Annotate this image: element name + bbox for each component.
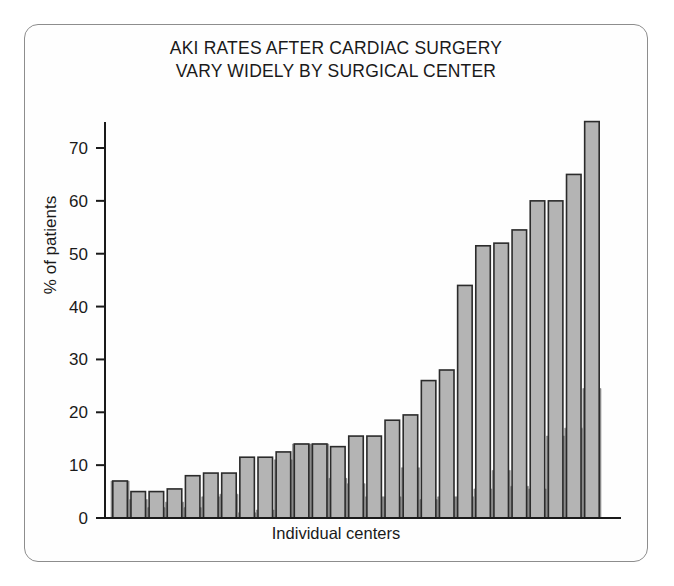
bar: [258, 457, 273, 518]
bar: [439, 370, 454, 518]
bar: [494, 243, 509, 518]
bar: [113, 481, 128, 518]
bar: [312, 444, 327, 518]
bar: [585, 122, 600, 518]
bar: [185, 476, 200, 518]
y-tick-label: 40: [69, 298, 88, 317]
y-tick-label: 20: [69, 403, 88, 422]
bar-chart-svg: 010203040506070: [25, 25, 649, 563]
bar: [149, 492, 164, 518]
bar: [131, 492, 146, 518]
bar: [276, 452, 291, 518]
x-axis-label: Individual centers: [25, 524, 647, 543]
bar: [349, 436, 364, 518]
y-axis-ticks: 010203040506070: [69, 139, 105, 528]
bar: [331, 447, 346, 518]
y-tick-label: 70: [69, 139, 88, 158]
plot-area: 010203040506070: [25, 25, 649, 563]
bar: [294, 444, 309, 518]
bar: [367, 436, 382, 518]
bar: [458, 285, 473, 518]
bar: [530, 201, 545, 518]
bar: [240, 457, 255, 518]
bar: [222, 473, 237, 518]
bar: [421, 381, 436, 518]
bar-series: [113, 122, 599, 518]
figure-panel: AKI RATES AFTER CARDIAC SURGERY VARY WID…: [24, 24, 648, 562]
bar: [476, 246, 491, 518]
y-tick-label: 60: [69, 192, 88, 211]
y-tick-label: 30: [69, 350, 88, 369]
bar: [512, 230, 527, 518]
y-tick-label: 10: [69, 456, 88, 475]
bar: [567, 174, 582, 518]
bar: [204, 473, 219, 518]
bar: [167, 489, 182, 518]
y-tick-label: 50: [69, 245, 88, 264]
bar: [548, 201, 563, 518]
bar: [385, 420, 400, 518]
bar: [403, 415, 418, 518]
y-axis-label: % of patients: [41, 155, 61, 335]
